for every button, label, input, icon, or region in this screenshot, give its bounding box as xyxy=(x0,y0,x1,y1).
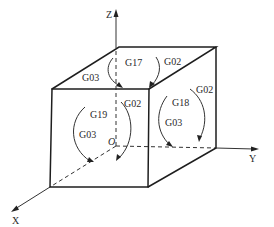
g18-cw-label: G02 xyxy=(196,84,213,95)
plane-code-g17: G17 xyxy=(125,57,142,68)
plane-g19: G19 G02 G03 xyxy=(74,98,142,162)
z-axis-label: Z xyxy=(106,9,112,20)
g17-ccw-label: G03 xyxy=(82,72,99,83)
g19-ccw-label: G03 xyxy=(79,129,96,140)
g17-cw-label: G02 xyxy=(164,56,181,67)
x-axis-label: X xyxy=(12,215,20,226)
arc-arrow-icon xyxy=(116,154,121,161)
plane-selection-diagram: Z Y X O G17 xyxy=(0,0,274,227)
y-axis-label: Y xyxy=(249,153,256,164)
origin-label: O xyxy=(108,136,115,147)
cube xyxy=(50,47,216,187)
z-arrow-icon xyxy=(114,9,119,17)
arc-arrow-icon xyxy=(197,135,202,142)
plane-code-g19: G19 xyxy=(90,109,107,120)
g18-ccw-label: G03 xyxy=(165,117,182,128)
arc-arrow-icon xyxy=(87,157,94,162)
x-axis: X xyxy=(11,146,116,226)
plane-g18: G18 G02 G03 xyxy=(159,84,214,147)
arc-arrow-icon xyxy=(116,82,123,88)
z-axis: Z xyxy=(106,9,119,146)
g19-cw-label: G02 xyxy=(124,98,141,109)
top-face-outline xyxy=(52,47,216,89)
plane-code-g18: G18 xyxy=(172,97,189,108)
y-axis: Y xyxy=(116,146,259,164)
y-arrow-icon xyxy=(251,147,259,152)
x-arrow-icon xyxy=(11,206,19,213)
